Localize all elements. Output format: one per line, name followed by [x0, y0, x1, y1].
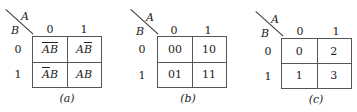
- cell-a1-b1: 11: [192, 62, 226, 87]
- cell-a1-b1: AB: [67, 62, 101, 87]
- cell-a0-b1: AB: [33, 62, 67, 87]
- map-grid: 00 10 01 11: [157, 36, 227, 88]
- column-variable-label: A: [146, 12, 154, 23]
- karnaugh-map-b: A B 0 1 0 1 00 10 01 11 (b): [125, 0, 244, 112]
- column-header-1: 1: [202, 25, 214, 36]
- cell-a0-b0: AB: [33, 37, 67, 62]
- row-header-0: 0: [262, 46, 274, 57]
- cell-a0-b1: 01: [158, 62, 192, 87]
- row-variable-label: B: [11, 25, 19, 36]
- column-header-1: 1: [330, 26, 342, 37]
- karnaugh-map-a: A B 0 1 0 1 AB AB AB AB (a): [0, 0, 119, 112]
- map-grid: 0 2 1 3: [281, 38, 352, 89]
- cell-a1-b0: AB: [67, 37, 101, 62]
- map-grid: AB AB AB AB: [32, 36, 102, 88]
- corner-diagonal: [255, 11, 283, 37]
- row-header-1: 1: [12, 69, 24, 80]
- column-header-1: 1: [78, 24, 90, 35]
- column-header-0: 0: [294, 26, 306, 37]
- figure-caption: (b): [173, 92, 203, 105]
- cell-a0-b0: 0: [282, 39, 317, 64]
- row-header-0: 0: [12, 44, 24, 55]
- column-header-0: 0: [168, 25, 180, 36]
- row-header-1: 1: [262, 71, 274, 82]
- cell-a1-b0: 10: [192, 37, 226, 62]
- cell-a0-b1: 1: [282, 64, 317, 89]
- column-variable-label: A: [271, 14, 279, 25]
- corner-diagonal: [5, 9, 33, 35]
- column-header-0: 0: [44, 24, 56, 35]
- figure-caption: (c): [301, 93, 331, 106]
- row-variable-label: B: [136, 26, 144, 37]
- karnaugh-map-c: A B 0 1 0 1 0 2 1 3 (c): [250, 0, 357, 112]
- column-variable-label: A: [21, 11, 29, 22]
- cell-a1-b0: 2: [317, 39, 352, 64]
- figure-caption: (a): [52, 92, 82, 105]
- corner-diagonal: [130, 9, 158, 35]
- row-header-1: 1: [136, 70, 148, 81]
- row-header-0: 0: [136, 44, 148, 55]
- cell-a0-b0: 00: [158, 37, 192, 62]
- row-variable-label: B: [261, 28, 269, 39]
- cell-a1-b1: 3: [317, 64, 352, 89]
